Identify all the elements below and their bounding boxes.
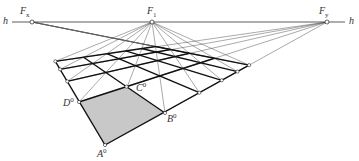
construction-lines [32,22,327,145]
label-D0: D0 [63,97,74,108]
label-F1: F1 [147,6,157,19]
label-C0: C0 [136,82,146,93]
label-Fy: Fy [319,6,329,19]
perspective-diagram [0,0,359,161]
label-A0: A0 [97,148,107,159]
label-B0: B0 [167,113,177,124]
label-Fx: Fx [20,6,30,19]
horizon-label-right: h [349,16,354,26]
horizon-label-left: h [3,16,8,26]
